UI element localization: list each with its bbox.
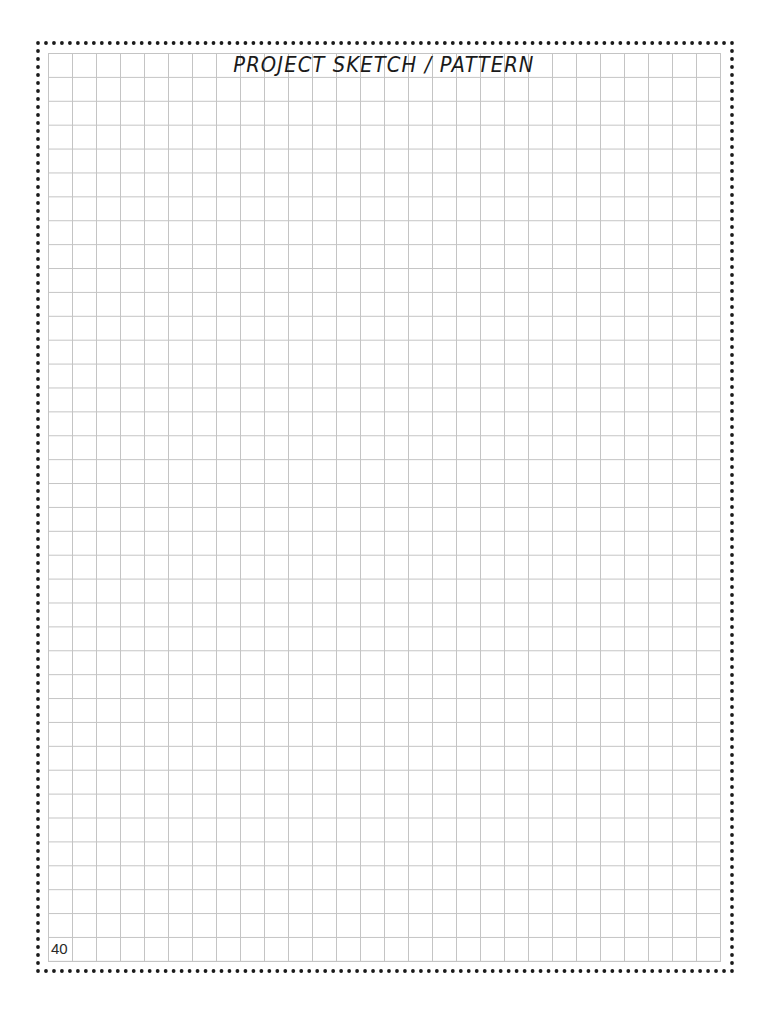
page-number: 40 [51, 940, 68, 958]
page-title: PROJECT SKETCH / PATTERN [27, 52, 740, 78]
sketch-pattern-page: PROJECT SKETCH / PATTERN 40 [0, 0, 767, 1018]
dotted-border-frame [34, 39, 736, 975]
